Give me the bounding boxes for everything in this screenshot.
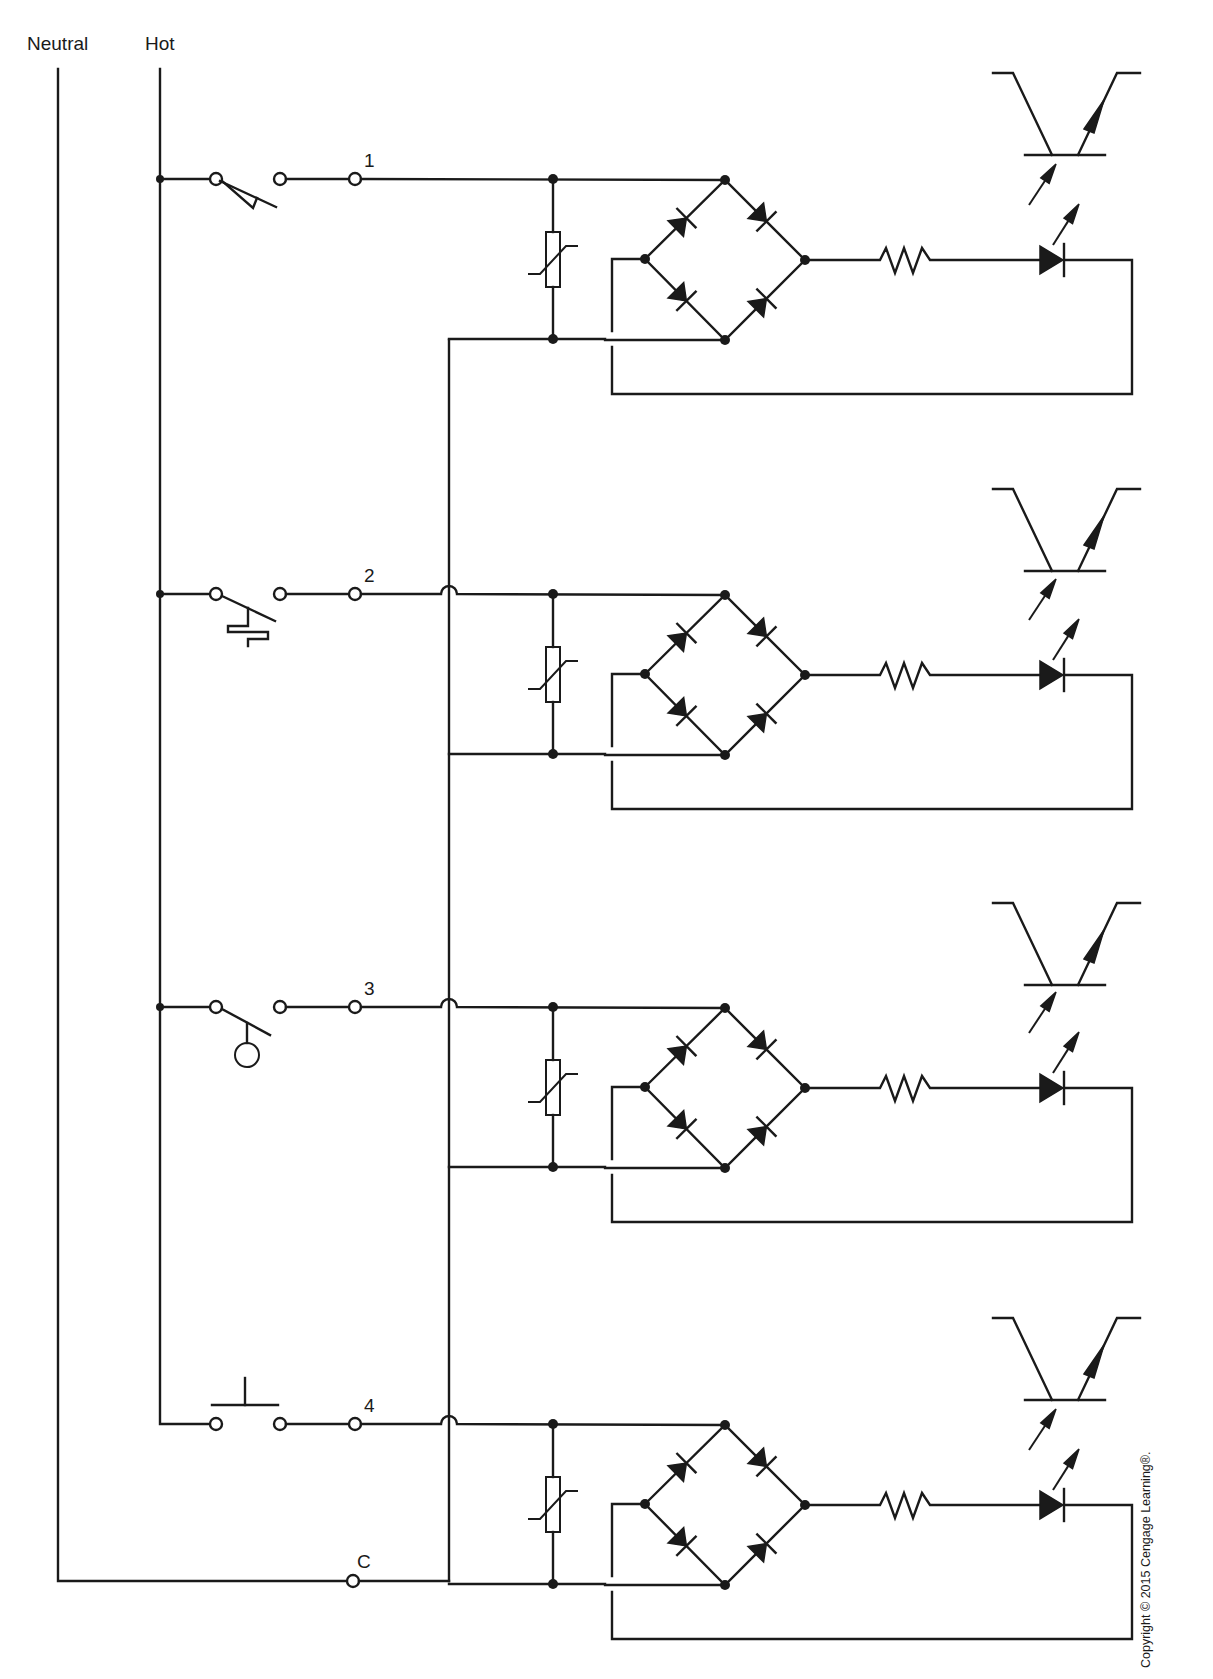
terminal-3 (349, 1001, 361, 1013)
led-icon (1040, 1074, 1063, 1102)
resistor-icon (805, 663, 1040, 688)
return-wire (449, 1584, 725, 1585)
terminal-c (347, 1575, 359, 1587)
input-wire-with-crossover (361, 1416, 725, 1425)
bridge-rectifier (645, 1008, 805, 1168)
switch-contact-right (274, 1418, 286, 1430)
resistor-icon (805, 1493, 1040, 1518)
led-icon (1040, 661, 1063, 689)
phototransistor-light-arrow-shaft (1029, 1009, 1045, 1033)
phototransistor-light-arrow-shaft (1029, 181, 1045, 205)
led-light-arrow-shaft (1053, 1049, 1068, 1073)
led-light-arrow-head (1064, 1449, 1079, 1469)
neutral-rail (58, 69, 348, 1581)
channel-1: 1 (156, 73, 1140, 394)
phototransistor-light-arrow-head (1041, 579, 1056, 598)
terminal-label: 2 (364, 565, 375, 586)
neutral-rail-label: Neutral (27, 33, 88, 54)
emitter-arrow-icon (1084, 930, 1104, 963)
phototransistor-emitter (1078, 489, 1140, 571)
led-light-arrow-shaft (1053, 1466, 1068, 1490)
varistor-curve (528, 1491, 578, 1519)
phototransistor-light-arrow-shaft (1029, 596, 1045, 620)
input-wire-with-crossover (361, 586, 725, 595)
switch-contact-right (274, 588, 286, 600)
return-wire (449, 1167, 725, 1168)
terminal-label: 3 (364, 978, 375, 999)
led-light-arrow-shaft (1053, 221, 1068, 245)
led-light-arrow-head (1064, 619, 1079, 639)
varistor-curve (528, 1074, 578, 1102)
emitter-arrow-icon (1084, 1345, 1104, 1378)
return-wire (449, 339, 725, 340)
opto-isolator-input-module-schematic: Neutral Hot C Copyright © 2015 Cengage L… (0, 0, 1213, 1679)
led-return-loop (612, 674, 1132, 809)
phototransistor-light-arrow-head (1041, 164, 1056, 183)
float-actuator-icon (235, 1043, 259, 1067)
bridge-rectifier (645, 595, 805, 755)
phototransistor-emitter (1078, 73, 1140, 155)
terminal-2 (349, 588, 361, 600)
channel-2: 2 (156, 489, 1140, 809)
switch-contact-left (210, 173, 222, 185)
switch-contact-left (210, 588, 222, 600)
bridge-rectifier (645, 180, 805, 340)
phototransistor-collector (993, 1318, 1052, 1400)
led-icon (1040, 1491, 1063, 1519)
led-return-loop (612, 1504, 1132, 1639)
channel-4: 4 (210, 1318, 1140, 1639)
led-light-arrow-shaft (1053, 636, 1068, 660)
led-icon (1040, 246, 1063, 274)
varistor-curve (528, 246, 578, 274)
phototransistor-emitter (1078, 1318, 1140, 1400)
switch-contact-left (210, 1001, 222, 1013)
channel-3: 3 (156, 903, 1140, 1222)
phototransistor-collector (993, 903, 1052, 985)
return-wire (449, 754, 725, 755)
terminal-4 (349, 1418, 361, 1430)
phototransistor-light-arrow-head (1041, 1409, 1056, 1428)
hot-rail-label: Hot (145, 33, 175, 54)
terminal-c-label: C (357, 1551, 371, 1572)
varistor-curve (528, 661, 578, 689)
input-channels: 1234 (156, 73, 1140, 1639)
bridge-rectifier (645, 1425, 805, 1585)
phototransistor-light-arrow-shaft (1029, 1426, 1045, 1450)
led-light-arrow-head (1064, 204, 1079, 224)
hot-rail (160, 69, 210, 1424)
switch-contact-left (210, 1418, 222, 1430)
terminal-label: 4 (364, 1395, 375, 1416)
phototransistor-collector (993, 73, 1052, 155)
input-wire (361, 179, 725, 180)
phototransistor-collector (993, 489, 1052, 571)
phototransistor-light-arrow-head (1041, 992, 1056, 1011)
resistor-icon (805, 248, 1040, 273)
copyright-text: Copyright © 2015 Cengage Learning®. (1139, 1452, 1153, 1668)
led-light-arrow-head (1064, 1032, 1079, 1052)
emitter-arrow-icon (1084, 516, 1104, 549)
terminal-1 (349, 173, 361, 185)
led-return-loop (612, 259, 1132, 394)
phototransistor-emitter (1078, 903, 1140, 985)
emitter-arrow-icon (1084, 100, 1104, 133)
terminal-label: 1 (364, 150, 375, 171)
led-return-loop (612, 1087, 1132, 1222)
resistor-icon (805, 1076, 1040, 1101)
switch-contact-right (274, 1001, 286, 1013)
input-wire-with-crossover (361, 999, 725, 1008)
switch-contact-right (274, 173, 286, 185)
